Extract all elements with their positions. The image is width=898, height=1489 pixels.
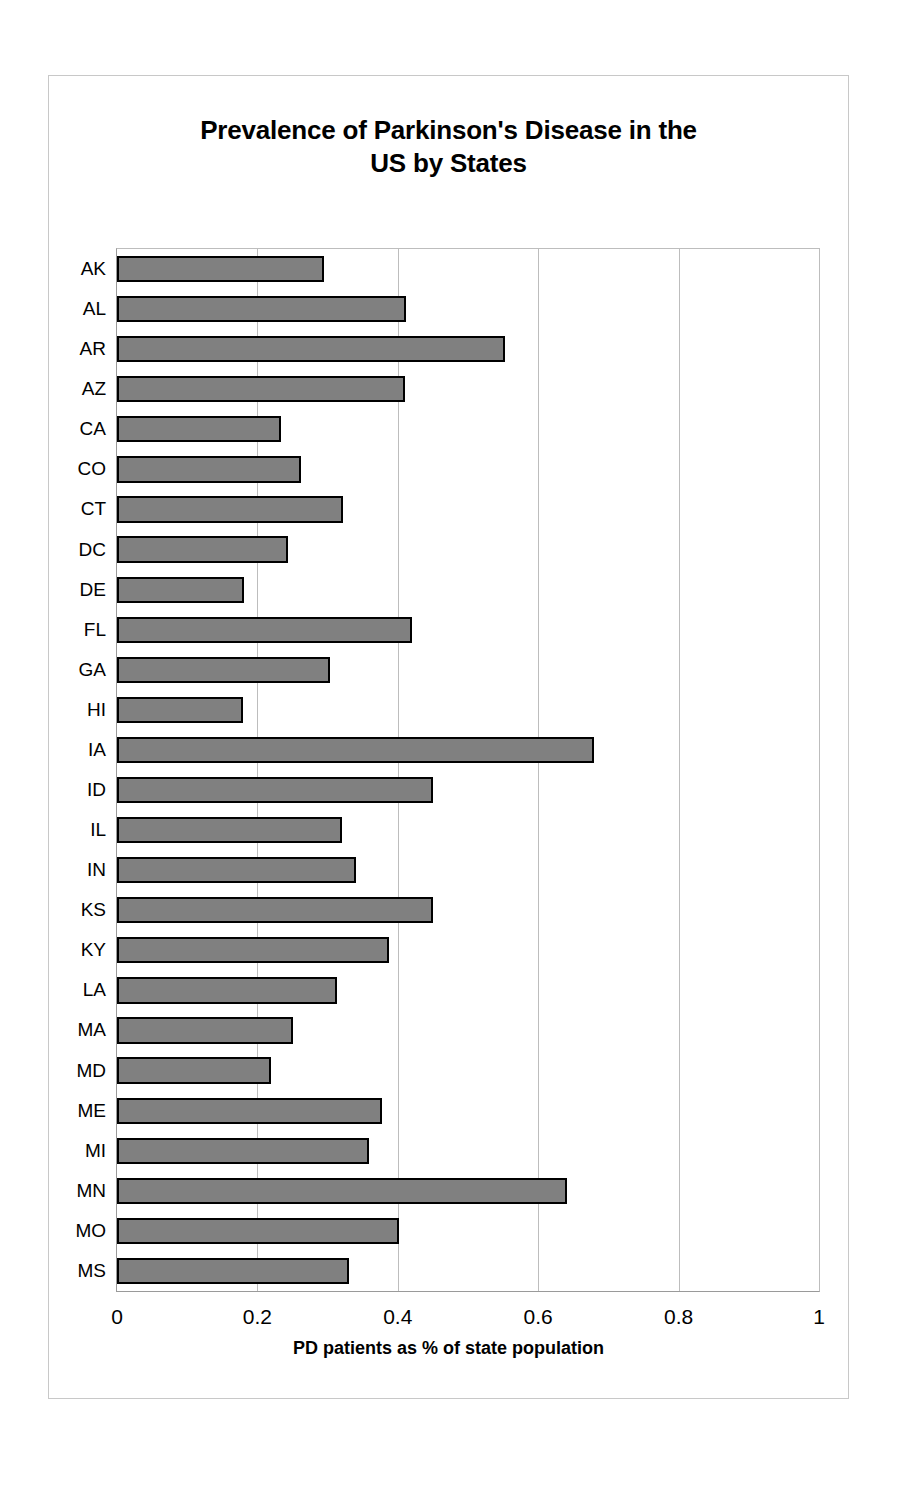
category-label-ks: KS — [81, 899, 106, 921]
bar-row: AL — [117, 296, 819, 322]
category-label-id: ID — [87, 779, 106, 801]
x-axis-tick-label: 1 — [813, 1305, 825, 1329]
bar-id[interactable] — [117, 777, 433, 803]
category-label-ak: AK — [81, 258, 106, 280]
x-axis-tick-label: 0.6 — [524, 1305, 553, 1329]
category-label-ma: MA — [78, 1019, 107, 1041]
category-label-ga: GA — [79, 659, 106, 681]
bar-row: ME — [117, 1098, 819, 1124]
bar-row: CT — [117, 496, 819, 522]
bar-row: KS — [117, 897, 819, 923]
chart-title-line-1: Prevalence of Parkinson's Disease in the — [49, 114, 848, 147]
bar-row: DC — [117, 536, 819, 562]
bar-row: IN — [117, 857, 819, 883]
category-label-fl: FL — [84, 619, 106, 641]
bar-ma[interactable] — [117, 1017, 293, 1043]
bar-ms[interactable] — [117, 1258, 349, 1284]
bar-ak[interactable] — [117, 256, 324, 282]
bar-mn[interactable] — [117, 1178, 567, 1204]
bar-me[interactable] — [117, 1098, 382, 1124]
bar-la[interactable] — [117, 977, 337, 1003]
bar-il[interactable] — [117, 817, 342, 843]
bar-row: LA — [117, 977, 819, 1003]
bar-row: GA — [117, 657, 819, 683]
category-label-in: IN — [87, 859, 106, 881]
bar-md[interactable] — [117, 1057, 271, 1083]
category-label-il: IL — [90, 819, 106, 841]
bar-row: AZ — [117, 376, 819, 402]
chart-title: Prevalence of Parkinson's Disease in the… — [49, 114, 848, 181]
bar-co[interactable] — [117, 456, 301, 482]
bar-series: AKALARAZCACOCTDCDEFLGAHIIAIDILINKSKYLAMA… — [117, 249, 819, 1291]
x-axis-tick-label: 0 — [111, 1305, 123, 1329]
category-label-ar: AR — [80, 338, 106, 360]
bar-in[interactable] — [117, 857, 356, 883]
category-label-ct: CT — [81, 498, 106, 520]
category-label-ms: MS — [78, 1260, 107, 1282]
bar-de[interactable] — [117, 577, 244, 603]
bar-row: CA — [117, 416, 819, 442]
bar-hi[interactable] — [117, 697, 243, 723]
category-label-la: LA — [83, 979, 106, 1001]
plot-area: AKALARAZCACOCTDCDEFLGAHIIAIDILINKSKYLAMA… — [116, 248, 820, 1292]
bar-fl[interactable] — [117, 617, 412, 643]
category-label-al: AL — [83, 298, 106, 320]
bar-row: DE — [117, 577, 819, 603]
gridline — [819, 249, 820, 1291]
bar-al[interactable] — [117, 296, 406, 322]
chart-title-line-2: US by States — [49, 147, 848, 180]
bar-row: KY — [117, 937, 819, 963]
bar-row: AK — [117, 256, 819, 282]
bar-dc[interactable] — [117, 536, 288, 562]
x-axis-tick-label: 0.8 — [664, 1305, 693, 1329]
bar-ky[interactable] — [117, 937, 389, 963]
x-axis-title: PD patients as % of state population — [49, 1338, 848, 1359]
category-label-co: CO — [78, 458, 107, 480]
category-label-ca: CA — [80, 418, 106, 440]
category-label-mo: MO — [75, 1220, 106, 1242]
category-label-hi: HI — [87, 699, 106, 721]
category-label-md: MD — [76, 1060, 106, 1082]
bar-row: MI — [117, 1138, 819, 1164]
x-axis-tick-label: 0.4 — [383, 1305, 412, 1329]
category-label-me: ME — [78, 1100, 107, 1122]
bar-ct[interactable] — [117, 496, 343, 522]
category-label-de: DE — [80, 579, 106, 601]
bar-row: IA — [117, 737, 819, 763]
bar-row: MS — [117, 1258, 819, 1284]
bar-ga[interactable] — [117, 657, 330, 683]
category-label-ia: IA — [88, 739, 106, 761]
bar-row: MD — [117, 1057, 819, 1083]
category-label-mi: MI — [85, 1140, 106, 1162]
bar-row: MN — [117, 1178, 819, 1204]
bar-az[interactable] — [117, 376, 405, 402]
bar-row: HI — [117, 697, 819, 723]
bar-row: AR — [117, 336, 819, 362]
bar-ar[interactable] — [117, 336, 505, 362]
bar-mi[interactable] — [117, 1138, 369, 1164]
bar-ks[interactable] — [117, 897, 433, 923]
bar-row: FL — [117, 617, 819, 643]
category-label-dc: DC — [79, 539, 106, 561]
bar-row: CO — [117, 456, 819, 482]
bar-ca[interactable] — [117, 416, 281, 442]
bar-row: MA — [117, 1017, 819, 1043]
bar-ia[interactable] — [117, 737, 594, 763]
category-label-mn: MN — [76, 1180, 106, 1202]
bar-mo[interactable] — [117, 1218, 399, 1244]
bar-row: MO — [117, 1218, 819, 1244]
x-axis-tick-label: 0.2 — [243, 1305, 272, 1329]
bar-row: IL — [117, 817, 819, 843]
category-label-ky: KY — [81, 939, 106, 961]
bar-row: ID — [117, 777, 819, 803]
chart-container: Prevalence of Parkinson's Disease in the… — [48, 75, 849, 1399]
category-label-az: AZ — [82, 378, 106, 400]
